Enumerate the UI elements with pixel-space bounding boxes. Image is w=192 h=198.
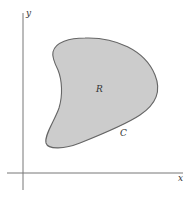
curve-label: C <box>120 129 127 138</box>
diagram-canvas <box>0 0 192 198</box>
y-axis-label: y <box>26 9 31 18</box>
x-axis-label: x <box>178 174 183 183</box>
region-label: R <box>96 85 103 94</box>
region-diagram: y x R C <box>0 0 192 198</box>
